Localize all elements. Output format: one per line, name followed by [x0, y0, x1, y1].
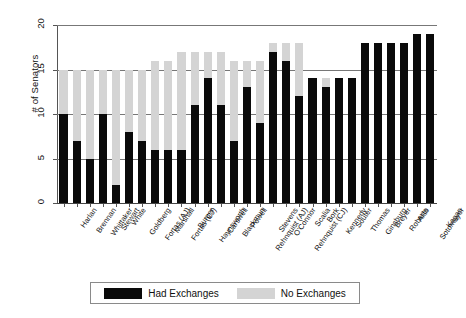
x-tickmark: [260, 204, 261, 207]
bar-segment-had-exchanges: [308, 78, 316, 203]
bar-column: [282, 25, 290, 203]
x-tickmark: [221, 204, 222, 207]
bar-column: [177, 25, 185, 203]
bar-column: [99, 25, 107, 203]
y-tick-label-5: 5: [35, 146, 46, 168]
x-tickmark: [155, 204, 156, 207]
bar-segment-had-exchanges: [204, 78, 212, 203]
x-tickmark: [181, 204, 182, 207]
bar-column: [413, 25, 421, 203]
bar-column: [322, 25, 330, 203]
y-tick-label-0: 0: [35, 191, 46, 213]
chart-legend: Had Exchanges No Exchanges: [90, 282, 360, 304]
bar-segment-had-exchanges: [125, 132, 133, 203]
bar-segment-had-exchanges: [426, 34, 434, 203]
plot-area: [57, 25, 437, 203]
legend-swatch-no-exchanges: [237, 288, 275, 299]
bar-column: [269, 25, 277, 203]
y-tick-label-15: 15: [35, 57, 46, 79]
bar-column: [73, 25, 81, 203]
bar-segment-no-exchanges: [99, 70, 107, 115]
bar-column: [191, 25, 199, 203]
bar-segment-had-exchanges: [164, 150, 172, 203]
bar-segment-had-exchanges: [400, 43, 408, 203]
x-tickmark: [116, 204, 117, 207]
bar-segment-had-exchanges: [348, 78, 356, 203]
bar-segment-no-exchanges: [217, 52, 225, 105]
bar-column: [230, 25, 238, 203]
bar-segment-had-exchanges: [99, 114, 107, 203]
bar-column: [138, 25, 146, 203]
bar-column: [348, 25, 356, 203]
bar-segment-had-exchanges: [230, 141, 238, 203]
y-axis-title: # of Senators: [29, 14, 40, 154]
bar-segment-had-exchanges: [59, 114, 67, 203]
x-tickmark: [286, 204, 287, 207]
bar-column: [217, 25, 225, 203]
legend-entry-had-exchanges: Had Exchanges: [104, 288, 219, 299]
x-tickmark: [64, 204, 65, 207]
bar-segment-had-exchanges: [282, 61, 290, 203]
bar-segment-no-exchanges: [151, 61, 159, 150]
bar-segment-no-exchanges: [282, 43, 290, 61]
x-tickmark: [430, 204, 431, 207]
bar-segment-had-exchanges: [361, 43, 369, 203]
legend-label-no-exchanges: No Exchanges: [281, 288, 346, 299]
bar-segment-no-exchanges: [59, 70, 67, 115]
x-tickmark: [391, 204, 392, 207]
bar-segment-no-exchanges: [243, 61, 251, 88]
bar-column: [125, 25, 133, 203]
bar-column: [374, 25, 382, 203]
bar-segment-had-exchanges: [413, 34, 421, 203]
x-tickmark: [77, 204, 78, 207]
x-tickmark: [90, 204, 91, 207]
bar-segment-no-exchanges: [125, 70, 133, 132]
bar-segment-had-exchanges: [322, 87, 330, 203]
x-tickmark: [417, 204, 418, 207]
bar-segment-no-exchanges: [269, 43, 277, 52]
y-tick-label-10: 10: [35, 102, 46, 124]
y-tick-label-20: 20: [35, 13, 46, 35]
x-tickmark: [103, 204, 104, 207]
bar-segment-no-exchanges: [322, 78, 330, 87]
bar-segment-no-exchanges: [112, 70, 120, 186]
bar-column: [361, 25, 369, 203]
x-tickmark: [273, 204, 274, 207]
bar-segment-had-exchanges: [387, 43, 395, 203]
bar-segment-no-exchanges: [177, 52, 185, 150]
x-tickmark: [326, 204, 327, 207]
bar-column: [112, 25, 120, 203]
bar-segment-no-exchanges: [73, 70, 81, 141]
bar-segment-no-exchanges: [191, 52, 199, 105]
bar-segment-no-exchanges: [230, 61, 238, 141]
x-tickmark: [195, 204, 196, 207]
x-tickmark: [365, 204, 366, 207]
bar-column: [426, 25, 434, 203]
bar-column: [164, 25, 172, 203]
bar-column: [387, 25, 395, 203]
x-tickmark: [234, 204, 235, 207]
bar-segment-no-exchanges: [164, 61, 172, 150]
x-tickmark: [129, 204, 130, 207]
legend-entry-no-exchanges: No Exchanges: [237, 288, 346, 299]
x-tickmark: [313, 204, 314, 207]
bar-segment-no-exchanges: [256, 61, 264, 123]
bar-segment-had-exchanges: [243, 87, 251, 203]
x-tickmark: [247, 204, 248, 207]
bar-segment-had-exchanges: [256, 123, 264, 203]
bar-segment-had-exchanges: [112, 185, 120, 203]
x-tickmark: [208, 204, 209, 207]
x-tickmark: [404, 204, 405, 207]
bar-segment-had-exchanges: [177, 150, 185, 203]
legend-swatch-had-exchanges: [104, 288, 142, 299]
bar-column: [335, 25, 343, 203]
bar-segment-had-exchanges: [374, 43, 382, 203]
x-tickmark: [168, 204, 169, 207]
x-axis-tick-labels: HarlanBrennanWhittakerStewartWhiteGoldbe…: [57, 204, 437, 276]
bar-column: [86, 25, 94, 203]
bar-segment-had-exchanges: [335, 78, 343, 203]
x-tickmark: [142, 204, 143, 207]
bar-segment-had-exchanges: [86, 159, 94, 204]
bar-segment-had-exchanges: [295, 96, 303, 203]
